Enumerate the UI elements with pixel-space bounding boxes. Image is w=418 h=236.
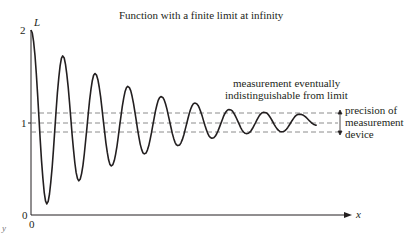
y-axis-label: L	[34, 16, 40, 28]
x-tick-label-0: 0	[29, 218, 35, 230]
y-tick-label-0: 0	[22, 209, 28, 221]
annotation-line-1: measurement eventually	[233, 77, 340, 89]
precision-label-line-1: precision of	[345, 104, 397, 116]
corner-y-label: y	[2, 222, 6, 234]
y-tick-label-1: 1	[21, 117, 27, 129]
chart-title: Function with a finite limit at infinity	[119, 9, 283, 21]
y-tick-label-2: 2	[20, 24, 26, 36]
x-axis-label: x	[356, 208, 361, 220]
precision-label-line-3: device	[345, 128, 374, 140]
precision-label-line-2: measurement	[345, 116, 404, 128]
damped-oscillation-curve	[31, 30, 317, 204]
annotation-line-2: indistinguishable from limit	[225, 89, 348, 101]
precision-bracket	[338, 110, 342, 135]
x-axis-arrow-icon	[344, 212, 352, 218]
